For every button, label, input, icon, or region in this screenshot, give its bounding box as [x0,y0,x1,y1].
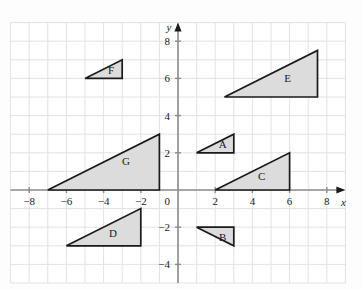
x-tick-label: 2 [212,195,218,207]
x-axis-name: x [340,196,346,208]
coordinate-plane-screenshot: −8−6−4−224688642−2−40 ABCDEFG xy [0,0,363,290]
y-tick-label: −2 [158,221,170,233]
y-tick-label: 4 [165,110,171,122]
triangle-label-E: E [284,72,291,84]
y-tick-label: 8 [165,35,171,47]
triangle-label-F: F [108,64,114,76]
y-tick-label: 6 [165,72,171,84]
x-tick-label: −8 [23,195,35,207]
x-tick-label: −4 [98,195,110,207]
x-tick-label: 8 [324,195,330,207]
y-tick-label: −4 [158,258,170,270]
triangle-label-G: G [122,155,130,167]
triangle-label-A: A [219,138,227,150]
triangle-label-B: B [219,231,226,243]
triangle-label-D: D [109,227,117,239]
x-tick-label: 4 [250,195,256,207]
y-tick-label: 2 [165,147,171,159]
coordinate-plane-figure: −8−6−4−224688642−2−40 ABCDEFG xy [0,0,363,290]
triangle-label-C: C [258,170,265,182]
x-tick-label: 6 [287,195,293,207]
x-tick-label: −2 [135,195,147,207]
origin-label: 0 [165,195,171,207]
x-tick-label: −6 [61,195,73,207]
y-axis-name: y [166,21,172,33]
